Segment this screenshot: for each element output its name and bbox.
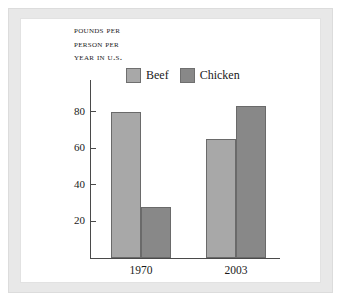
y-axis-tick xyxy=(90,221,96,222)
figure-frame: Pounds per person per year in U.S. Beef … xyxy=(0,0,341,301)
x-axis-line xyxy=(90,258,280,259)
bar-beef-2003 xyxy=(206,139,236,258)
y-axis-tick xyxy=(90,111,96,112)
y-axis-tick xyxy=(90,148,96,149)
y-axis-tick-label: 40 xyxy=(64,178,85,190)
plot-area: 2040608019702003 xyxy=(20,18,321,283)
y-axis-tick-label: 80 xyxy=(64,105,85,117)
y-axis-tick xyxy=(90,184,96,185)
bar-chart: Pounds per person per year in U.S. Beef … xyxy=(20,18,321,283)
y-axis-tick-label: 20 xyxy=(64,214,85,226)
y-axis-line xyxy=(90,80,91,258)
x-axis-category-label-2003: 2003 xyxy=(206,264,266,276)
x-axis-category-label-1970: 1970 xyxy=(111,264,171,276)
bar-chicken-2003 xyxy=(236,106,266,258)
y-axis-tick-label: 60 xyxy=(64,141,85,153)
bar-beef-1970 xyxy=(111,112,141,259)
bar-chicken-1970 xyxy=(141,207,171,258)
